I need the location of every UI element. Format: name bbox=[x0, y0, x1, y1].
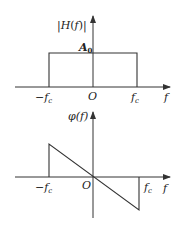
top-ylabel: ||H(f)|H(f)| bbox=[57, 19, 87, 33]
bottom-tick-fc: fc bbox=[143, 181, 152, 195]
top-tick-neg-fc: −fc bbox=[35, 91, 52, 105]
level-label: A0 bbox=[78, 41, 93, 55]
bottom-xlabel: f bbox=[162, 182, 169, 195]
top-tick-fc: fc bbox=[130, 91, 139, 105]
amplitude-plot: ||H(f)|H(f)| A0 −fc O fc f bbox=[15, 16, 170, 105]
bottom-tick-neg-fc: −fc bbox=[35, 181, 52, 195]
filter-response-diagram: ||H(f)|H(f)| A0 −fc O fc f φ(f) −fc O fc… bbox=[0, 0, 183, 232]
bottom-ylabel: φ(f) bbox=[68, 110, 88, 123]
bottom-origin-label: O bbox=[82, 179, 91, 192]
top-xlabel: f bbox=[163, 91, 170, 104]
top-origin-label: O bbox=[88, 90, 97, 103]
phase-plot: φ(f) −fc O fc f bbox=[15, 110, 170, 218]
